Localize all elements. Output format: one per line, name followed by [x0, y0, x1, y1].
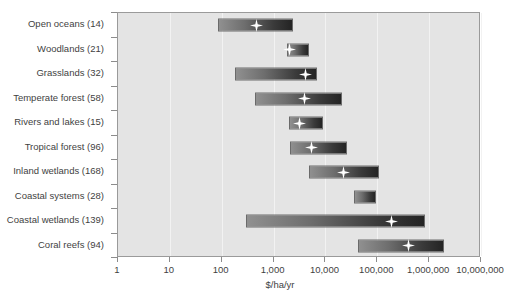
range-bar[interactable]: [246, 215, 425, 228]
chart-row: [118, 38, 479, 63]
x-axis-tick: [169, 257, 170, 262]
chart-row: [118, 234, 479, 259]
x-axis-tick: [117, 257, 118, 262]
gridline: [481, 13, 482, 256]
range-bar[interactable]: [289, 117, 323, 130]
range-bar[interactable]: [354, 190, 376, 203]
x-axis-tick: [428, 257, 429, 262]
y-axis-label: Inland wetlands (168): [13, 159, 104, 184]
range-bar[interactable]: [255, 92, 342, 105]
y-axis-labels: Open oceans (14)Woodlands (21)Grasslands…: [0, 12, 112, 257]
range-bar[interactable]: [290, 141, 347, 154]
chart-row: [118, 209, 479, 234]
range-bar[interactable]: [358, 239, 443, 252]
x-axis-title-label: $/ha/yr: [265, 279, 294, 290]
x-axis-tick: [273, 257, 274, 262]
range-bar-chart: Open oceans (14)Woodlands (21)Grasslands…: [0, 0, 520, 298]
y-axis-label: Grasslands (32): [36, 61, 104, 86]
x-axis-label: 10,000: [310, 264, 339, 275]
chart-row: [118, 62, 479, 87]
plot-area: [117, 12, 480, 257]
range-bar[interactable]: [235, 68, 317, 81]
chart-row: [118, 13, 479, 38]
x-axis-tick: [324, 257, 325, 262]
x-axis-label: 100: [213, 264, 229, 275]
x-axis-label: 1,000: [261, 264, 285, 275]
chart-row: [118, 111, 479, 136]
y-axis-label: Coastal systems (28): [15, 184, 104, 209]
x-axis-label: 10,000,000: [456, 264, 504, 275]
chart-row: [118, 87, 479, 112]
x-axis-tick: [376, 257, 377, 262]
chart-row: [118, 136, 479, 161]
y-axis-label: Tropical forest (96): [25, 135, 104, 160]
y-axis-label: Coastal wetlands (139): [7, 208, 104, 233]
range-bar[interactable]: [218, 19, 293, 32]
y-axis-label: Coral reefs (94): [38, 233, 104, 258]
y-axis-label: Open oceans (14): [28, 12, 104, 37]
range-bar[interactable]: [309, 166, 380, 179]
y-axis-label: Woodlands (21): [37, 37, 104, 62]
chart-row: [118, 160, 479, 185]
x-axis-label: 100,000: [359, 264, 393, 275]
chart-row: [118, 185, 479, 210]
x-axis-label: 10: [164, 264, 175, 275]
x-axis-tick: [221, 257, 222, 262]
y-axis-label: Temperate forest (58): [13, 86, 104, 111]
x-axis-tick: [480, 257, 481, 262]
x-axis-label: 1: [114, 264, 119, 275]
range-bar[interactable]: [287, 43, 310, 56]
x-axis-title: $/ha/yr: [0, 279, 520, 290]
x-axis-label: 1,000,000: [407, 264, 449, 275]
y-axis-label: Rivers and lakes (15): [14, 110, 104, 135]
